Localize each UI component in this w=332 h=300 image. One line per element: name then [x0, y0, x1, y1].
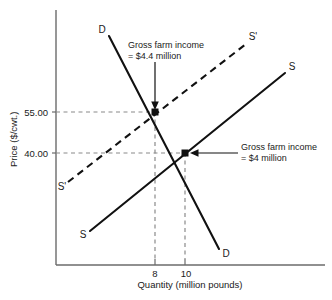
supply-demand-chart: Price ($/cwt.) Quantity (million pounds)… [0, 0, 332, 300]
y-tick-label-55: 55.00 [24, 107, 48, 118]
equilibrium-marker-10-40 [182, 150, 189, 157]
supply-curve-label-bottom: S [80, 229, 87, 240]
supply-shift-curve-label-top: S' [249, 31, 258, 42]
y-tick-label-40: 40.00 [24, 148, 48, 159]
demand-curve [109, 36, 219, 249]
annotation-lower-line2: = $4 million [241, 153, 287, 163]
y-axis-title: Price ($/cwt.) [8, 112, 19, 167]
demand-curve-label-top: D [98, 24, 105, 35]
supply-shift-curve-label-bottom: S' [58, 181, 67, 192]
chart-figure: Price ($/cwt.) Quantity (million pounds)… [0, 0, 332, 300]
annotation-upper-line1: Gross farm income [128, 40, 204, 50]
annotation-lower-line1: Gross farm income [241, 142, 317, 152]
demand-curve-label-bottom: D [222, 248, 229, 259]
annotation-arrowhead-lower [190, 149, 199, 157]
x-tick-label-10: 10 [181, 268, 192, 279]
annotation-upper-line2: = $4.4 million [128, 51, 181, 61]
x-tick-label-8: 8 [152, 268, 157, 279]
supply-curve-label-top: S [289, 61, 296, 72]
x-axis-title: Quantity (million pounds) [137, 279, 242, 290]
